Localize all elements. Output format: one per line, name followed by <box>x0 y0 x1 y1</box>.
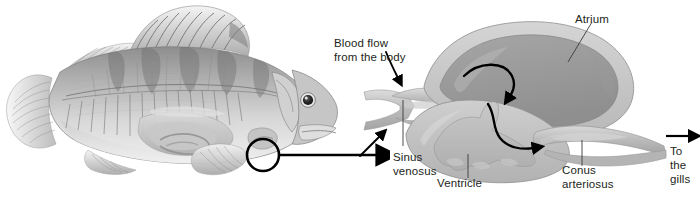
label-blood-flow-from-body: Blood flow from the body <box>334 36 406 64</box>
label-conus-arteriosus: Conus arteriosus <box>562 163 614 191</box>
inflow-arrow-lower <box>360 136 380 156</box>
label-atrium: Atrium <box>575 12 609 26</box>
label-ventricle: Ventricle <box>437 176 482 190</box>
inflow-arrows <box>360 52 398 156</box>
pectoral-fin <box>191 144 247 175</box>
fish-heart-diagram <box>350 0 700 211</box>
fish-eye <box>301 93 316 108</box>
label-to-the-gills: To the gills <box>670 144 690 186</box>
fish-heart-anatomy-figure: Blood flow from the body Atrium Sinus ve… <box>0 0 700 211</box>
label-sinus-venosus: Sinus venosus <box>393 150 437 178</box>
caudal-fin <box>7 75 56 148</box>
